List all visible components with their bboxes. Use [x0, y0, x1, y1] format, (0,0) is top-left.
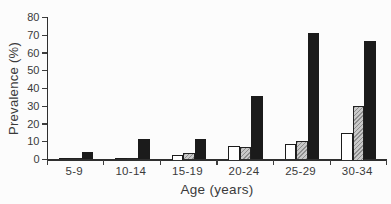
- bar-chart-figure: Prevalence (%) Age (years) 0102030405060…: [0, 0, 391, 204]
- x-axis-category-label: 5-9: [46, 165, 102, 177]
- black-bar-20-24: [251, 96, 263, 160]
- y-axis-tick-label: 70: [14, 29, 40, 42]
- white-bar-30-34: [341, 133, 353, 160]
- x-axis-category-label: 15-19: [159, 165, 215, 177]
- x-axis-category-label: 20-24: [216, 165, 272, 177]
- white-bar-15-19: [172, 155, 184, 159]
- white-bar-5-9: [59, 158, 71, 160]
- y-axis-tick: [42, 17, 47, 18]
- y-axis-tick: [42, 123, 47, 124]
- y-axis-tick: [42, 52, 47, 53]
- white-bar-20-24: [228, 146, 240, 159]
- black-bar-25-29: [308, 33, 320, 159]
- y-axis-tick: [42, 141, 47, 142]
- y-axis-line: [47, 17, 48, 161]
- gray-hatched-bar-10-14: [127, 158, 139, 160]
- y-axis-tick-label: 10: [14, 135, 40, 148]
- y-axis-tick-label: 80: [14, 11, 40, 24]
- black-bar-10-14: [138, 139, 150, 159]
- x-axis-tick: [386, 160, 387, 164]
- y-axis-tick: [42, 70, 47, 71]
- black-bar-30-34: [364, 41, 376, 160]
- gray-hatched-bar-30-34: [353, 106, 365, 159]
- x-axis-title: Age (years): [127, 182, 307, 197]
- gray-hatched-bar-5-9: [70, 158, 82, 160]
- x-axis-category-label: 25-29: [273, 165, 329, 177]
- gray-hatched-bar-20-24: [240, 147, 252, 159]
- y-axis-tick-label: 40: [14, 82, 40, 95]
- x-axis-category-label: 10-14: [103, 165, 159, 177]
- y-axis-tick-label: 30: [14, 100, 40, 113]
- black-bar-5-9: [82, 152, 94, 159]
- y-axis-tick-label: 50: [14, 64, 40, 77]
- y-axis-tick-label: 60: [14, 47, 40, 60]
- white-bar-25-29: [285, 144, 297, 160]
- gray-hatched-bar-25-29: [296, 141, 308, 160]
- gray-hatched-bar-15-19: [183, 153, 195, 159]
- y-axis-tick-label: 0: [14, 153, 40, 166]
- black-bar-15-19: [195, 139, 207, 159]
- y-axis-tick: [42, 88, 47, 89]
- x-axis-category-label: 30-34: [329, 165, 385, 177]
- y-axis-tick: [42, 35, 47, 36]
- y-axis-tick: [42, 106, 47, 107]
- white-bar-10-14: [115, 158, 127, 160]
- y-axis-tick-label: 20: [14, 118, 40, 131]
